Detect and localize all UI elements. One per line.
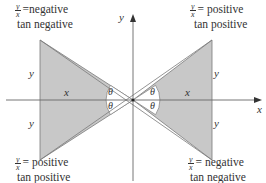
left-lower-y-label: y (29, 118, 34, 129)
annotation-tan-line: tan positive (17, 171, 70, 183)
annotation-tan-line: tan negative (17, 18, 73, 30)
right-x-label: x (185, 87, 190, 98)
annotation-tan-line: tan positive (194, 18, 247, 30)
annotation-ratio-line: yx= positive (15, 156, 70, 171)
annotation-ratio-line: yx= positive (190, 3, 247, 18)
fraction-y-over-x: yx (188, 156, 194, 171)
left-upper-y-label: y (29, 68, 34, 79)
x-axis-label: x (257, 104, 262, 115)
left-x-label: x (64, 87, 69, 98)
right-lower-y-label: y (214, 118, 219, 129)
theta-label-upper-left: θ (108, 86, 113, 97)
origin-point (131, 98, 134, 101)
theta-label-lower-right: θ (150, 100, 155, 111)
annotation-tan-line: tan negative (190, 171, 246, 183)
annotation-bottom-right: yx= negative tan negative (188, 156, 246, 183)
theta-label-lower-left: θ (108, 100, 113, 111)
right-upper-y-label: y (214, 68, 219, 79)
annotation-ratio-line: yx=negative (15, 3, 73, 18)
fraction-y-over-x: yx (190, 3, 196, 18)
annotation-top-left: yx=negative tan negative (15, 3, 73, 30)
fraction-y-over-x: yx (15, 156, 21, 171)
annotation-ratio-line: yx= negative (188, 156, 246, 171)
y-axis-arrow-icon (130, 14, 136, 22)
fraction-y-over-x: yx (15, 3, 21, 18)
theta-label-upper-right: θ (150, 86, 155, 97)
annotation-top-right: yx= positive tan positive (190, 3, 247, 30)
y-axis-label: y (119, 12, 124, 23)
annotation-bottom-left: yx= positive tan positive (15, 156, 70, 183)
